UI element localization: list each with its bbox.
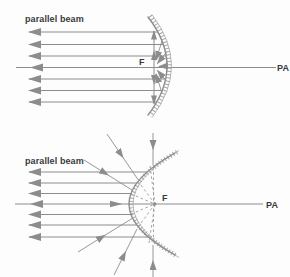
incident-ray — [84, 160, 132, 190]
focal-point-label: F — [139, 57, 145, 67]
figure-canvas: parallel beam PA F — [0, 0, 290, 277]
focal-point-dot — [154, 203, 157, 206]
bottom-diagram: parallel beam PA — [15, 133, 278, 277]
down-arrowhead — [151, 75, 157, 85]
incident-ray — [107, 134, 139, 181]
principal-axis-label: PA — [277, 63, 289, 73]
principal-axis-label: PA — [266, 200, 278, 210]
axial-ray-arrowhead — [110, 201, 123, 208]
focal-point-label: F — [162, 193, 168, 203]
up-arrowhead — [151, 30, 157, 40]
dashed-extension — [149, 204, 155, 243]
incident-ray — [78, 219, 132, 253]
top-diagram: parallel beam PA F — [16, 14, 289, 118]
mirror-optics-diagram: parallel beam PA F — [0, 0, 290, 277]
parallel-beam-label: parallel beam — [25, 156, 84, 166]
parallel-beam-label: parallel beam — [25, 14, 84, 24]
converging-ray — [156, 41, 162, 60]
incident-ray — [114, 229, 137, 275]
